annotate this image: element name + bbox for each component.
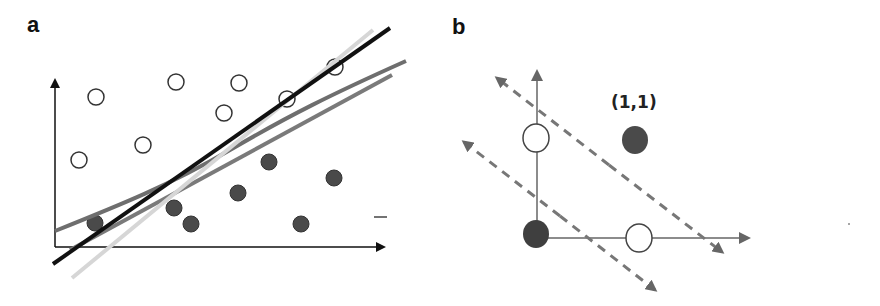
point-0-0-filled xyxy=(523,220,549,248)
lower-dashed-boundary xyxy=(464,142,560,216)
open-point xyxy=(216,105,232,121)
point-0-1-open xyxy=(523,124,549,152)
open-point xyxy=(231,75,247,91)
black-line xyxy=(53,28,390,264)
filled-point xyxy=(293,216,309,232)
filled-point xyxy=(261,154,277,170)
gray-straight-line xyxy=(70,75,392,250)
point-1-1-label: (1,1) xyxy=(611,92,657,112)
panel-a xyxy=(53,28,406,278)
filled-point xyxy=(230,185,246,201)
open-point xyxy=(88,89,104,105)
point-1-1-filled xyxy=(622,126,648,154)
filled-point xyxy=(326,170,342,186)
point-1-0-open xyxy=(626,224,652,252)
stray-dot xyxy=(848,223,850,225)
panel-b xyxy=(464,72,850,290)
open-point xyxy=(135,137,151,153)
filled-point xyxy=(183,216,199,232)
upper-dashed-boundary xyxy=(497,78,609,165)
open-point xyxy=(168,74,184,90)
open-point xyxy=(71,152,87,168)
open-points-a xyxy=(71,59,343,168)
figure-canvas xyxy=(0,0,880,306)
filled-point xyxy=(166,200,182,216)
light-gray-line xyxy=(72,30,373,278)
